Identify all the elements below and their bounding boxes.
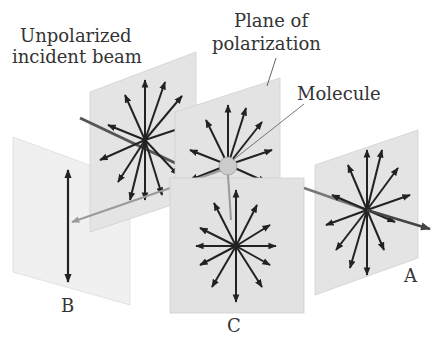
label-unpolarized-2: incident beam: [12, 46, 142, 67]
label-panel-a: A: [403, 265, 418, 286]
molecule-icon: [219, 157, 237, 175]
label-panel-b: B: [61, 295, 74, 316]
polarization-diagram: Unpolarized incident beam Plane of polar…: [0, 0, 440, 341]
label-plane-2: polarization: [212, 33, 321, 54]
label-molecule: Molecule: [297, 83, 381, 104]
label-plane-1: Plane of: [234, 10, 309, 31]
label-panel-c: C: [227, 315, 241, 336]
label-unpolarized-1: Unpolarized: [20, 25, 132, 46]
